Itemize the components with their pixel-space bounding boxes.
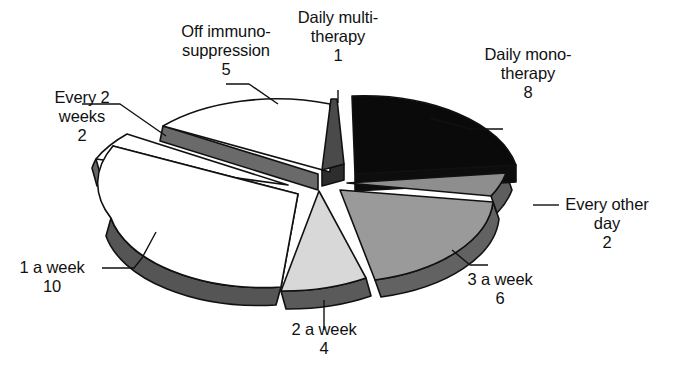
label-1-a-week-line1: 1 a week (0, 258, 104, 277)
slice-top-3-a-week (340, 190, 493, 280)
label-1-a-week: 1 a week 10 (0, 258, 104, 296)
slice-top-daily-mono-therapy (352, 96, 516, 174)
label-every-other-day-line1: Every other (540, 195, 674, 214)
label-daily-mono-therapy: Daily mono- therapy 8 (440, 45, 616, 102)
label-every-other-day-value: 2 (540, 233, 674, 252)
label-2-a-week-value: 4 (252, 339, 396, 358)
label-every-other-day-line2: day (540, 214, 674, 233)
label-daily-mono-therapy-line1: Daily mono- (440, 45, 616, 64)
label-3-a-week-value: 6 (428, 289, 572, 308)
label-2-a-week: 2 a week 4 (252, 320, 396, 358)
label-daily-multi-therapy-line1: Daily multi- (262, 8, 414, 27)
label-every-2-weeks-line1: Every 2 (4, 88, 160, 107)
label-2-a-week-line1: 2 a week (252, 320, 396, 339)
pie-chart: Off immuno- suppression 5 Daily multi- t… (0, 0, 674, 371)
label-daily-multi-therapy-line2: therapy (262, 27, 414, 46)
label-every-2-weeks-line2: weeks (4, 107, 160, 126)
label-daily-multi-therapy: Daily multi- therapy 1 (262, 8, 414, 65)
label-daily-multi-therapy-value: 1 (262, 46, 414, 65)
label-3-a-week: 3 a week 6 (428, 270, 572, 308)
label-1-a-week-value: 10 (0, 277, 104, 296)
label-daily-mono-therapy-value: 8 (440, 83, 616, 102)
label-daily-mono-therapy-line2: therapy (440, 64, 616, 83)
label-every-2-weeks-value: 2 (4, 126, 160, 145)
label-every-other-day: Every other day 2 (540, 195, 674, 252)
label-every-2-weeks: Every 2 weeks 2 (4, 88, 160, 145)
label-3-a-week-line1: 3 a week (428, 270, 572, 289)
